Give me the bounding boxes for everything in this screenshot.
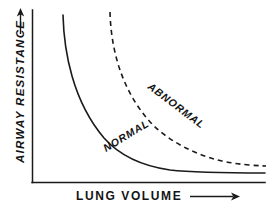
airway-resistance-figure: AIRWAY RESISTANCE LUNG VOLUME NORMAL ABN…	[0, 0, 273, 209]
abnormal-curve	[110, 12, 266, 166]
x-axis-label: LUNG VOLUME	[76, 189, 182, 203]
y-axis-label: AIRWAY RESISTANCE	[14, 20, 26, 164]
abnormal-curve-label: ABNORMAL	[145, 79, 208, 130]
normal-curve-label: NORMAL	[101, 117, 151, 154]
plot-canvas: AIRWAY RESISTANCE LUNG VOLUME NORMAL ABN…	[0, 0, 273, 209]
arrow-right-icon	[190, 193, 240, 201]
